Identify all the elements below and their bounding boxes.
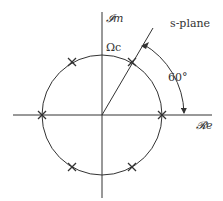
plane-title: s-plane bbox=[170, 17, 210, 30]
imaginary-axis-label: 𝓘m bbox=[106, 12, 123, 25]
pole-240-icon bbox=[68, 163, 76, 171]
pole-300-icon bbox=[128, 163, 136, 171]
angle-label: 60° bbox=[168, 71, 188, 84]
cutoff-label: Ωc bbox=[106, 41, 121, 54]
real-axis-label: 𝓡e bbox=[196, 119, 213, 132]
arrow-head-top-icon bbox=[141, 42, 149, 49]
s-plane-diagram: 𝓘m s-plane Ωc 60° 𝓡e bbox=[0, 0, 223, 201]
